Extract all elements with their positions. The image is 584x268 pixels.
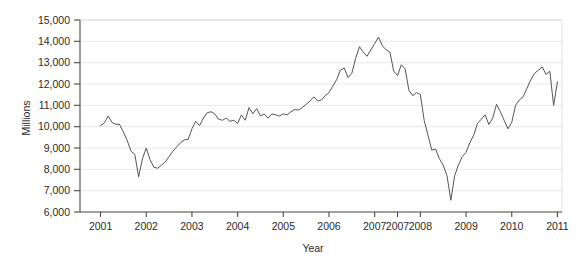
x-tick-label: 2007 [386,220,410,232]
x-tick-label: 2002 [135,220,159,232]
y-tick-label: 8,000 [44,163,70,175]
y-axis-group: 6,0007,0008,0009,00010,00011,00012,00013… [38,14,80,218]
y-tick-label: 14,000 [38,35,70,47]
x-tick-label: 2009 [454,220,478,232]
y-tick-label: 10,000 [38,120,70,132]
y-tick-label: 13,000 [38,56,70,68]
y-tick-label: 11,000 [39,99,70,111]
x-tick-label: 2006 [317,220,341,232]
x-tick-label: 2001 [89,220,113,232]
x-tick-label: 2003 [180,220,204,232]
y-axis-title: Millions [20,100,32,135]
y-tick-label: 6,000 [44,206,70,218]
x-tick-label: 2010 [500,220,524,232]
x-tick-label: 2005 [272,220,296,232]
y-axis-title-group: Millions [20,100,32,135]
y-tick-label: 7,000 [44,184,70,196]
x-tick-label: 2007 [363,220,387,232]
y-tick-label: 9,000 [44,142,70,154]
y-tick-label: 15,000 [38,14,70,26]
line-chart-svg: 6,0007,0008,0009,00010,00011,00012,00013… [0,0,584,268]
x-tick-label: 2011 [546,220,569,232]
chart-figure: 6,0007,0008,0009,00010,00011,00012,00013… [0,0,584,268]
data-series-group [101,37,558,200]
gridlines-group [80,20,562,212]
plot-border-group [80,20,562,212]
x-axis-title: Year [302,242,324,254]
plot-frame [80,20,562,212]
series-line-0 [101,37,558,200]
x-axis-group: 2001200220032004200520062007200720082009… [80,212,569,232]
x-tick-label: 2008 [409,220,433,232]
y-tick-label: 12,000 [38,78,70,90]
x-tick-label: 2004 [226,220,250,232]
x-axis-title-group: Year [302,242,324,254]
